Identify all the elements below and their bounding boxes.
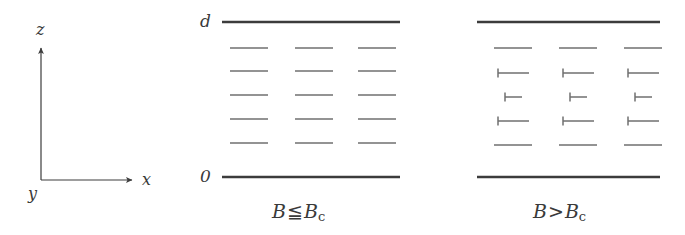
vortex-mark: [563, 69, 594, 78]
meissner-panel: [222, 22, 400, 177]
boundary-label-d: d: [200, 13, 211, 30]
panels-group: [222, 22, 662, 177]
caption-operator: ≦: [286, 200, 304, 222]
caption-subscript: c: [318, 209, 325, 224]
caption-subscript: c: [579, 209, 586, 224]
coordinate-axes-group: [41, 48, 132, 180]
panel-caption-meissner: B≦Bc: [272, 202, 325, 221]
caption-symbol-bc: B: [304, 200, 318, 222]
vortex-mark: [505, 93, 522, 102]
boundary-label-zero: 0: [200, 168, 211, 185]
axis-label-z: z: [36, 22, 44, 38]
caption-symbol-b: B: [533, 200, 547, 222]
figure-root: z x y d 0 B≦Bc B>Bc: [0, 0, 685, 235]
vortex-mark: [570, 93, 587, 102]
caption-operator: >: [547, 200, 565, 222]
diagram-canvas: [0, 0, 685, 235]
axis-label-y: y: [28, 186, 37, 202]
vortex-mark: [563, 117, 594, 126]
vortex-mark: [628, 69, 659, 78]
panel-caption-vortex: B>Bc: [533, 202, 586, 221]
axis-label-x: x: [142, 172, 151, 188]
vortex-mark: [498, 117, 529, 126]
vortex-panel: [477, 22, 662, 177]
caption-symbol-bc: B: [565, 200, 579, 222]
vortex-mark: [628, 117, 659, 126]
caption-symbol-b: B: [272, 200, 286, 222]
vortex-mark: [498, 69, 529, 78]
vortex-mark: [635, 93, 652, 102]
